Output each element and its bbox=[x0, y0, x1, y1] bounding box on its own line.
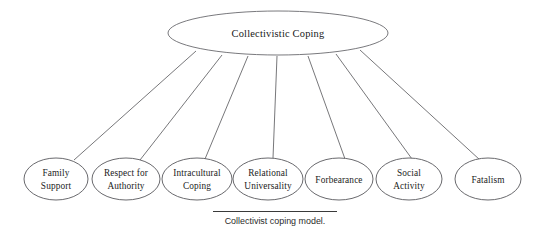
node-shape bbox=[233, 158, 303, 200]
edge-root-to-respect-for-authority bbox=[140, 55, 222, 160]
node-label-line1: Social bbox=[397, 168, 421, 178]
caption-divider bbox=[213, 211, 337, 212]
node-shape bbox=[24, 158, 88, 200]
caption-label: Collectivist coping model. bbox=[217, 215, 332, 227]
node-label-line2: Universality bbox=[244, 181, 292, 191]
node-label-line1: Fatalism bbox=[472, 175, 506, 185]
edge-root-to-fatalism bbox=[360, 50, 480, 160]
node-label-line2: Activity bbox=[393, 181, 425, 191]
node-social-activity: Social Activity bbox=[376, 158, 442, 200]
node-label-line1: Forbearance bbox=[315, 175, 362, 185]
node-fatalism: Fatalism bbox=[455, 158, 521, 200]
node-intracultural-coping: Intracultural Coping bbox=[162, 158, 232, 200]
node-relational-universality: Relational Universality bbox=[233, 158, 303, 200]
diagram-canvas: Collectivistic Coping Family Support Res… bbox=[0, 0, 541, 241]
edge-root-to-social-activity bbox=[336, 54, 412, 159]
edge-root-to-relational-universality bbox=[273, 56, 277, 158]
node-shape bbox=[162, 158, 232, 200]
node-label-line1: Relational bbox=[248, 168, 288, 178]
root-node-collectivistic-coping: Collectivistic Coping bbox=[168, 11, 388, 55]
edge-root-to-forbearance bbox=[308, 56, 345, 159]
edge-root-to-intracultural-coping bbox=[205, 56, 248, 159]
node-respect-for-authority: Respect for Authority bbox=[92, 158, 160, 200]
edge-root-to-family-support bbox=[74, 51, 196, 160]
node-label-line1: Family bbox=[42, 168, 69, 178]
figure-collectivist-coping-model: Collectivistic Coping Family Support Res… bbox=[0, 0, 541, 241]
node-family-support: Family Support bbox=[24, 158, 88, 200]
node-label-line2: Support bbox=[41, 181, 72, 191]
node-shape bbox=[376, 158, 442, 200]
root-node-label: Collectivistic Coping bbox=[232, 28, 325, 39]
node-forbearance: Forbearance bbox=[305, 158, 373, 200]
node-label-line1: Intracultural bbox=[173, 168, 221, 178]
node-label-line2: Coping bbox=[183, 181, 211, 191]
edge-group bbox=[74, 50, 480, 160]
node-label-line1: Respect for bbox=[104, 168, 149, 178]
node-shape bbox=[92, 158, 160, 200]
node-label-line2: Authority bbox=[107, 181, 144, 191]
figure-caption: Collectivist coping model. bbox=[213, 211, 337, 227]
